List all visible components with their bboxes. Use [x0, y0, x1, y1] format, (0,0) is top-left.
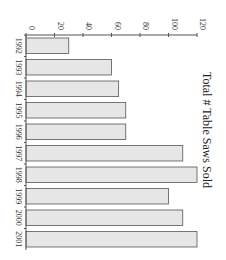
tick-label: 100 — [170, 18, 179, 30]
category-label: 1992 — [14, 38, 23, 54]
category-label: 1995 — [14, 102, 23, 118]
bar — [26, 189, 169, 204]
bar — [26, 103, 126, 118]
bar — [26, 60, 112, 75]
tick-label: 60 — [113, 22, 122, 30]
category-label: 2000 — [14, 210, 23, 226]
category-label: 1993 — [14, 59, 23, 75]
bars — [26, 38, 197, 247]
category-label: 2001 — [14, 231, 23, 247]
bar — [26, 81, 119, 96]
chart-title: Total # Table Saws Sold — [200, 72, 214, 188]
category-label: 1997 — [14, 145, 23, 161]
tick-label: 80 — [141, 22, 150, 30]
bar — [26, 146, 183, 161]
bar — [26, 232, 197, 247]
bar — [26, 210, 183, 225]
bar — [26, 124, 126, 139]
category-label: 1999 — [14, 188, 23, 204]
bar — [26, 167, 197, 182]
category-axis: 1992199319941995199619971998199920002001 — [14, 35, 26, 250]
value-axis: 020406080100120 — [26, 18, 207, 37]
bar — [26, 38, 69, 53]
category-label: 1998 — [14, 167, 23, 183]
category-label: 1996 — [14, 124, 23, 140]
tick-label: 0 — [27, 26, 36, 30]
category-label: 1994 — [14, 81, 23, 97]
bar-chart: 020406080100120 199219931994199519961997… — [0, 0, 226, 260]
tick-label: 120 — [198, 18, 207, 30]
tick-label: 40 — [84, 22, 93, 30]
tick-label: 20 — [56, 22, 65, 30]
